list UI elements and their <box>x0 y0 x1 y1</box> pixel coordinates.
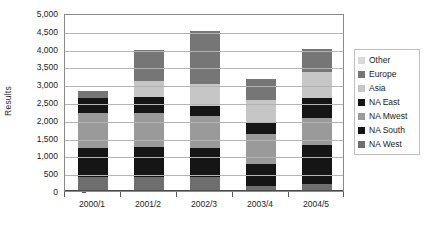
y-axis-tick-label: 3,000 <box>22 81 58 90</box>
bar-segment <box>78 98 108 112</box>
bar-group <box>78 15 108 191</box>
y-axis-tick-label: 4,500 <box>22 28 58 37</box>
plot-area <box>64 14 344 192</box>
y-axis-title: Results <box>3 71 13 131</box>
gridline <box>65 104 343 105</box>
stacked-bar-chart: Results 05001,0001,5002,0002,5003,0003,5… <box>0 0 426 225</box>
x-axis-tick-mark <box>288 192 289 197</box>
x-axis-tick-label: 2003/4 <box>247 199 273 209</box>
chart-legend: OtherEuropeAsiaNA EastNA MwestNA SouthNA… <box>354 49 420 155</box>
y-axis-tick-label: 0 <box>22 188 58 197</box>
bar-group <box>190 15 220 191</box>
bars-layer <box>65 15 343 191</box>
bar-segment <box>246 134 276 164</box>
legend-item[interactable]: Europe <box>358 67 417 81</box>
gridline <box>65 140 343 141</box>
legend-swatch-icon <box>358 141 365 148</box>
bar-stack <box>246 79 276 191</box>
legend-label: NA Mwest <box>369 112 407 121</box>
legend-label: Europe <box>369 70 396 79</box>
legend-item[interactable]: Other <box>358 53 417 67</box>
y-axis-tick-label: 1,500 <box>22 134 58 143</box>
legend-label: Asia <box>369 84 386 93</box>
legend-swatch-icon <box>358 85 365 92</box>
bar-group <box>246 15 276 191</box>
x-axis-tick-label: 2004/5 <box>303 199 329 209</box>
bar-segment <box>246 79 276 100</box>
bar-segment <box>190 84 220 105</box>
y-axis-tick-labels: 05001,0001,5002,0002,5003,0003,5004,0004… <box>22 14 58 192</box>
gridline <box>65 122 343 123</box>
legend-swatch-icon <box>358 99 365 106</box>
bar-segment <box>190 31 220 84</box>
legend-label: NA West <box>369 140 402 149</box>
gridline <box>65 51 343 52</box>
legend-swatch-icon <box>358 113 365 120</box>
legend-item[interactable]: NA East <box>358 95 417 109</box>
x-axis-tick-marks <box>64 192 344 197</box>
x-axis-tick-mark <box>343 192 344 197</box>
x-axis-tick-mark <box>232 192 233 197</box>
gridline <box>65 175 343 176</box>
x-axis-tick-label: 2001/2 <box>135 199 161 209</box>
bar-segment <box>134 81 164 97</box>
bar-segment <box>190 106 220 117</box>
x-axis-tick-mark <box>176 192 177 197</box>
gridline <box>65 157 343 158</box>
bar-group <box>302 15 332 191</box>
y-axis-tick-label: 5,000 <box>22 10 58 19</box>
y-axis-tick-label: 2,500 <box>22 99 58 108</box>
bar-segment <box>190 148 220 176</box>
x-axis-tick-mark <box>120 192 121 197</box>
gridline <box>65 33 343 34</box>
y-axis-tick-label: 500 <box>22 170 58 179</box>
bar-segment <box>246 122 276 134</box>
legend-label: Other <box>369 56 390 65</box>
bar-group <box>134 15 164 191</box>
bar-segment <box>78 91 108 98</box>
bar-segment <box>134 177 164 191</box>
legend-item[interactable]: NA Mwest <box>358 109 417 123</box>
x-axis-tick-label: 2000/1 <box>79 199 105 209</box>
y-axis-tick-label: 3,500 <box>22 63 58 72</box>
bar-segment <box>78 177 108 191</box>
legend-item[interactable]: Asia <box>358 81 417 95</box>
bar-segment <box>302 145 332 184</box>
y-axis-tick-label: 4,000 <box>22 45 58 54</box>
x-axis-tick-labels: 2000/12001/22002/32003/42004/5 <box>64 199 344 213</box>
x-axis-tick-label: 2002/3 <box>191 199 217 209</box>
bar-segment <box>134 147 164 177</box>
legend-swatch-icon <box>358 127 365 134</box>
legend-swatch-icon <box>358 71 365 78</box>
bar-segment <box>302 98 332 118</box>
gridline <box>65 68 343 69</box>
bar-segment <box>78 113 108 149</box>
gridline <box>65 86 343 87</box>
bar-segment <box>302 72 332 99</box>
legend-label: NA South <box>369 126 405 135</box>
bar-stack <box>190 31 220 191</box>
legend-item[interactable]: NA South <box>358 123 417 137</box>
bar-segment <box>134 113 164 147</box>
x-axis-tick-mark <box>64 192 65 197</box>
x-axis-baseline <box>65 190 343 191</box>
bar-segment <box>190 177 220 191</box>
y-axis-tick-label: 2,000 <box>22 117 58 126</box>
legend-swatch-icon <box>358 57 365 64</box>
legend-item[interactable]: NA West <box>358 137 417 151</box>
bar-stack <box>302 49 332 191</box>
bar-segment <box>78 148 108 176</box>
y-axis-tick-label: 1,000 <box>22 152 58 161</box>
legend-label: NA East <box>369 98 400 107</box>
bar-stack <box>134 50 164 191</box>
bar-segment <box>134 50 164 80</box>
